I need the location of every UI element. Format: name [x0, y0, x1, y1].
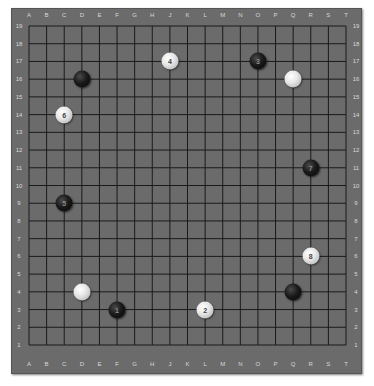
- column-label-top: O: [256, 12, 261, 18]
- row-label-left: 1: [17, 342, 20, 348]
- column-label-top: H: [150, 12, 154, 18]
- white-stone[interactable]: 2: [197, 301, 214, 318]
- column-label-top: E: [97, 12, 101, 18]
- row-label-right: 2: [354, 324, 357, 330]
- row-label-left: 9: [17, 200, 20, 206]
- column-label-top: J: [168, 12, 171, 18]
- column-label-top: F: [115, 12, 119, 18]
- column-label-bottom: J: [168, 361, 171, 367]
- column-label-bottom: D: [80, 361, 84, 367]
- column-label-top: N: [238, 12, 242, 18]
- row-label-left: 8: [17, 218, 20, 224]
- column-label-bottom: O: [256, 361, 261, 367]
- column-label-bottom: T: [344, 361, 348, 367]
- row-label-right: 17: [353, 58, 360, 64]
- row-label-left: 10: [16, 183, 23, 189]
- move-number: 5: [62, 200, 66, 207]
- column-label-bottom: S: [326, 361, 330, 367]
- black-stone[interactable]: [285, 283, 302, 300]
- column-label-bottom: A: [27, 361, 31, 367]
- row-label-left: 5: [17, 271, 20, 277]
- move-number: 6: [62, 111, 66, 118]
- row-label-right: 9: [354, 200, 357, 206]
- column-label-top: A: [27, 12, 31, 18]
- black-stone[interactable]: 5: [56, 195, 73, 212]
- white-stone[interactable]: [285, 71, 302, 88]
- row-label-right: 13: [353, 129, 360, 135]
- row-label-left: 15: [16, 94, 23, 100]
- row-label-left: 11: [16, 165, 22, 171]
- column-label-top: L: [203, 12, 206, 18]
- column-label-bottom: H: [150, 361, 154, 367]
- column-label-top: S: [326, 12, 330, 18]
- row-label-left: 14: [16, 112, 23, 118]
- row-label-left: 3: [17, 307, 20, 313]
- white-stone[interactable]: 6: [56, 106, 73, 123]
- row-label-right: 5: [354, 271, 357, 277]
- row-label-right: 11: [353, 165, 359, 171]
- column-label-bottom: C: [62, 361, 66, 367]
- white-stone[interactable]: 4: [161, 53, 178, 70]
- column-label-bottom: M: [220, 361, 225, 367]
- row-label-right: 14: [353, 112, 360, 118]
- row-label-left: 6: [17, 253, 20, 259]
- row-label-right: 19: [353, 23, 360, 29]
- column-label-top: Q: [291, 12, 296, 18]
- column-label-top: T: [344, 12, 348, 18]
- move-number: 1: [115, 306, 119, 313]
- column-label-bottom: Q: [291, 361, 296, 367]
- row-label-right: 16: [353, 76, 360, 82]
- row-label-left: 17: [16, 58, 23, 64]
- row-label-left: 4: [17, 289, 20, 295]
- column-label-bottom: P: [274, 361, 278, 367]
- white-stone[interactable]: 8: [302, 248, 319, 265]
- row-label-right: 4: [354, 289, 357, 295]
- row-label-left: 12: [16, 147, 23, 153]
- column-label-bottom: F: [115, 361, 119, 367]
- black-stone[interactable]: 7: [302, 159, 319, 176]
- row-label-right: 1: [354, 342, 357, 348]
- row-label-right: 15: [353, 94, 360, 100]
- move-number: 3: [256, 58, 260, 65]
- row-label-left: 19: [16, 23, 23, 29]
- row-label-right: 12: [353, 147, 360, 153]
- white-stone[interactable]: [73, 283, 90, 300]
- column-label-bottom: B: [45, 361, 49, 367]
- column-label-top: D: [80, 12, 84, 18]
- column-label-bottom: N: [238, 361, 242, 367]
- column-label-bottom: G: [132, 361, 137, 367]
- column-label-top: B: [45, 12, 49, 18]
- column-label-top: R: [309, 12, 313, 18]
- black-stone[interactable]: [73, 71, 90, 88]
- column-label-top: C: [62, 12, 66, 18]
- column-label-bottom: R: [309, 361, 313, 367]
- column-label-bottom: L: [203, 361, 206, 367]
- row-label-left: 13: [16, 129, 23, 135]
- row-label-right: 18: [353, 41, 360, 47]
- column-label-top: K: [185, 12, 189, 18]
- move-number: 2: [203, 306, 207, 313]
- row-label-left: 18: [16, 41, 23, 47]
- row-label-left: 7: [17, 236, 20, 242]
- board-grid: [0, 0, 374, 386]
- row-label-right: 6: [354, 253, 357, 259]
- row-label-left: 2: [17, 324, 20, 330]
- column-label-bottom: K: [185, 361, 189, 367]
- row-label-right: 3: [354, 307, 357, 313]
- move-number: 8: [309, 253, 313, 260]
- column-label-top: P: [274, 12, 278, 18]
- column-label-bottom: E: [97, 361, 101, 367]
- black-stone[interactable]: 1: [109, 301, 126, 318]
- row-label-right: 10: [353, 183, 360, 189]
- move-number: 4: [168, 58, 172, 65]
- move-number: 7: [309, 164, 313, 171]
- row-label-right: 8: [354, 218, 357, 224]
- row-label-left: 16: [16, 76, 23, 82]
- column-label-top: M: [220, 12, 225, 18]
- row-label-right: 7: [354, 236, 357, 242]
- column-label-top: G: [132, 12, 137, 18]
- black-stone[interactable]: 3: [249, 53, 266, 70]
